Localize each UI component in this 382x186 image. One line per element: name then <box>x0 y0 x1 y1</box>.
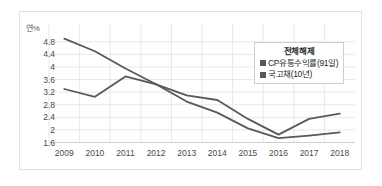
x-axis-tick: 2016 <box>269 148 288 158</box>
x-axis-tick: 2013 <box>177 148 196 158</box>
x-axis-tick: 2015 <box>238 148 257 158</box>
x-axis-tick: 2009 <box>55 148 74 158</box>
legend-item-label: CP유통수익률(91일) <box>268 58 338 69</box>
legend-item-label: 국고채(10년) <box>268 69 312 80</box>
chart-legend: 전체해제 CP유통수익률(91일)국고채(10년) <box>254 42 344 84</box>
legend-title: 전체해제 <box>260 46 338 57</box>
legend-item: CP유통수익률(91일) <box>260 58 338 69</box>
legend-swatch-icon <box>260 60 266 66</box>
x-axis-tick: 2012 <box>147 148 166 158</box>
legend-items: CP유통수익률(91일)국고채(10년) <box>260 58 338 80</box>
x-axis-tick: 2011 <box>116 148 134 158</box>
legend-item: 국고채(10년) <box>260 69 338 80</box>
x-axis-tick: 2014 <box>208 148 227 158</box>
x-axis-tick: 2017 <box>300 148 319 158</box>
x-axis-tick: 2018 <box>330 148 349 158</box>
x-axis-tick-labels: 2009201020112012201320142015201620172018 <box>0 0 382 186</box>
legend-swatch-icon <box>260 72 266 78</box>
x-axis-tick: 2010 <box>85 148 104 158</box>
